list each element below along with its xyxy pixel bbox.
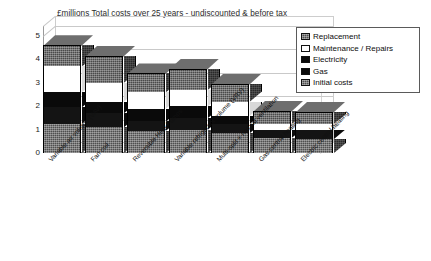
bar-segment-side-face <box>334 139 346 153</box>
bar-segment-face <box>86 83 122 102</box>
legend-item[interactable]: Initial costs <box>301 77 415 88</box>
chart-container: £millions Total costs over 25 years - un… <box>0 0 431 261</box>
y-axis-tick-label: 0 <box>6 149 40 157</box>
bar-segment-side-face <box>334 130 346 139</box>
y-axis-tick: 1 <box>0 126 40 134</box>
bar-segment[interactable] <box>295 112 333 124</box>
legend-label: Electricity <box>313 55 347 64</box>
bar-segment-face <box>128 92 164 108</box>
legend-swatch-1 <box>301 33 310 40</box>
bar-segment[interactable] <box>127 73 165 92</box>
bar-segment[interactable] <box>43 92 81 107</box>
bar-segment[interactable] <box>43 107 81 123</box>
bar-top-front-edge <box>85 56 123 57</box>
legend-label: Initial costs <box>313 78 353 87</box>
bar-segment[interactable] <box>43 66 81 92</box>
bar-segment-face <box>44 92 80 107</box>
legend-item[interactable]: Maintenance / Repairs <box>301 43 415 54</box>
bar-segment[interactable] <box>85 56 123 83</box>
legend-item[interactable]: Electricity <box>301 54 415 65</box>
bar-segment-side <box>334 139 346 153</box>
chart-legend: ReplacementMaintenance / RepairsElectric… <box>296 27 420 93</box>
bar-segment-face <box>170 90 206 106</box>
legend-label: Gas <box>313 67 328 76</box>
bar-segment-face <box>44 66 80 92</box>
y-axis-tick-label: 5 <box>6 32 40 40</box>
y-axis-tick: 0 <box>0 149 40 157</box>
bar-top-front-edge <box>169 69 207 70</box>
legend-swatch-5 <box>301 79 310 86</box>
legend-swatch-4 <box>301 68 310 75</box>
bar-top-front-edge <box>43 45 81 46</box>
bar-segment[interactable] <box>127 109 165 122</box>
bar-segment-face <box>128 73 164 92</box>
y-axis-tick: 5 <box>0 32 40 40</box>
legend-label: Replacement <box>313 32 360 41</box>
bar-top-front-edge <box>211 84 249 85</box>
bar-segment[interactable] <box>169 90 207 106</box>
bar-segment-face <box>44 107 80 123</box>
legend-swatch-3 <box>301 56 310 63</box>
legend-item[interactable]: Replacement <box>301 31 415 42</box>
y-axis-tick-label: 3 <box>6 79 40 87</box>
legend-label: Maintenance / Repairs <box>313 44 393 53</box>
bar-segment-face <box>296 112 332 124</box>
legend-swatch-2 <box>301 45 310 52</box>
bar-segment-side <box>334 130 346 139</box>
bar-top-front-edge <box>295 112 333 113</box>
y-axis-tick: 3 <box>0 79 40 87</box>
y-axis-tick-label: 4 <box>6 55 40 63</box>
bar-segment[interactable] <box>43 45 81 66</box>
bar-segment-face <box>128 109 164 122</box>
bar-segment-face <box>170 69 206 90</box>
bar-segment-face <box>44 45 80 66</box>
y-axis-tick-label: 2 <box>6 102 40 110</box>
bar-segment[interactable] <box>85 83 123 102</box>
bar-segment[interactable] <box>169 69 207 90</box>
bar-top-front-edge <box>127 73 165 74</box>
bar-column[interactable] <box>85 0 123 153</box>
bar-segment[interactable] <box>127 92 165 108</box>
y-axis-tick: 4 <box>0 55 40 63</box>
bar-segment-face <box>86 56 122 83</box>
legend-item[interactable]: Gas <box>301 66 415 77</box>
y-axis-tick: 2 <box>0 102 40 110</box>
y-axis-tick-label: 1 <box>6 126 40 134</box>
